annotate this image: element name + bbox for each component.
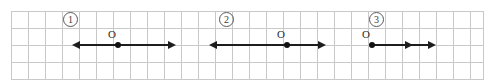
ray-right xyxy=(372,44,428,46)
arrowhead-mid-icon xyxy=(405,41,413,49)
number-line-diagram: 3O xyxy=(0,0,493,81)
diagram-index-badge: 3 xyxy=(369,12,384,27)
origin-point-label: O xyxy=(362,29,370,40)
origin-point-dot xyxy=(369,42,375,48)
worksheet-canvas: 1O2O3O xyxy=(0,0,493,81)
arrowhead-right-icon xyxy=(428,41,436,49)
